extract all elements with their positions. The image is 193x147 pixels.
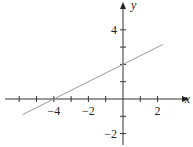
chart: −4−224−2xy [0, 0, 193, 147]
y-axis-label: y [130, 0, 137, 12]
x-tick-label: −2 [82, 104, 95, 118]
y-tick-label: 4 [111, 23, 117, 37]
x-tick-label: 2 [155, 104, 161, 118]
x-axis-label: x [184, 92, 191, 106]
x-tick-label: −4 [47, 104, 60, 118]
y-axis-arrow-icon [120, 2, 126, 9]
y-tick-label: −2 [104, 127, 117, 141]
